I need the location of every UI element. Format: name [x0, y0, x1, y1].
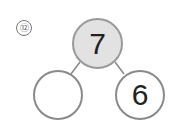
whole-value: 7: [89, 27, 106, 61]
part-left-circle[interactable]: [33, 70, 83, 120]
right-connector: [115, 62, 124, 74]
whole-circle: 7: [72, 18, 123, 69]
left-connector: [71, 62, 80, 74]
part-right-value: 6: [132, 78, 149, 112]
part-right-circle: 6: [115, 70, 165, 120]
